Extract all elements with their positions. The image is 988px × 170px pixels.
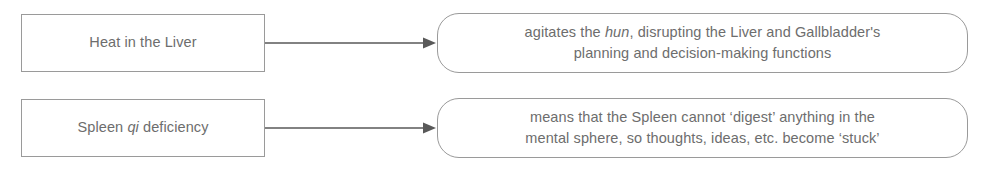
cause-label-2-prefix: Spleen [78,119,128,135]
cause-label-1-prefix: Heat in the Liver [89,34,196,50]
cause-label-2-suffix: deficiency [139,119,209,135]
cause-label-2-italic: qi [127,119,139,135]
cause-box-1: Heat in the Liver [21,14,265,72]
arrow-connector-2 [265,99,437,157]
effect-box-1: agitates the hun, disrupting the Liver a… [437,13,968,73]
cause-label-2: Spleen qi deficiency [78,118,209,138]
flow-row-2: Spleen qi deficiency means that the Sple… [0,99,988,157]
effect-box-2: means that the Spleen cannot ‘digest’ an… [437,98,968,158]
cause-box-2: Spleen qi deficiency [21,99,265,157]
effect-label-2-line1-prefix: means that the Spleen cannot ‘digest’ an… [530,109,875,125]
cause-label-1: Heat in the Liver [89,33,196,53]
effect-label-1-line1-prefix: agitates the [525,24,605,40]
effect-label-1-line1-suffix: , disrupting the Liver and Gallbladder's [629,24,880,40]
effect-label-1-line2: planning and decision-making functions [574,45,832,61]
effect-label-1-line1-italic: hun [605,24,630,40]
arrow-connector-1 [265,14,437,72]
effect-label-2: means that the Spleen cannot ‘digest’ an… [525,107,879,149]
effect-label-2-line2: mental sphere, so thoughts, ideas, etc. … [525,130,879,146]
flow-row-1: Heat in the Liver agitates the hun, disr… [0,14,988,72]
effect-label-1: agitates the hun, disrupting the Liver a… [525,22,881,64]
flow-diagram: Heat in the Liver agitates the hun, disr… [0,0,988,170]
